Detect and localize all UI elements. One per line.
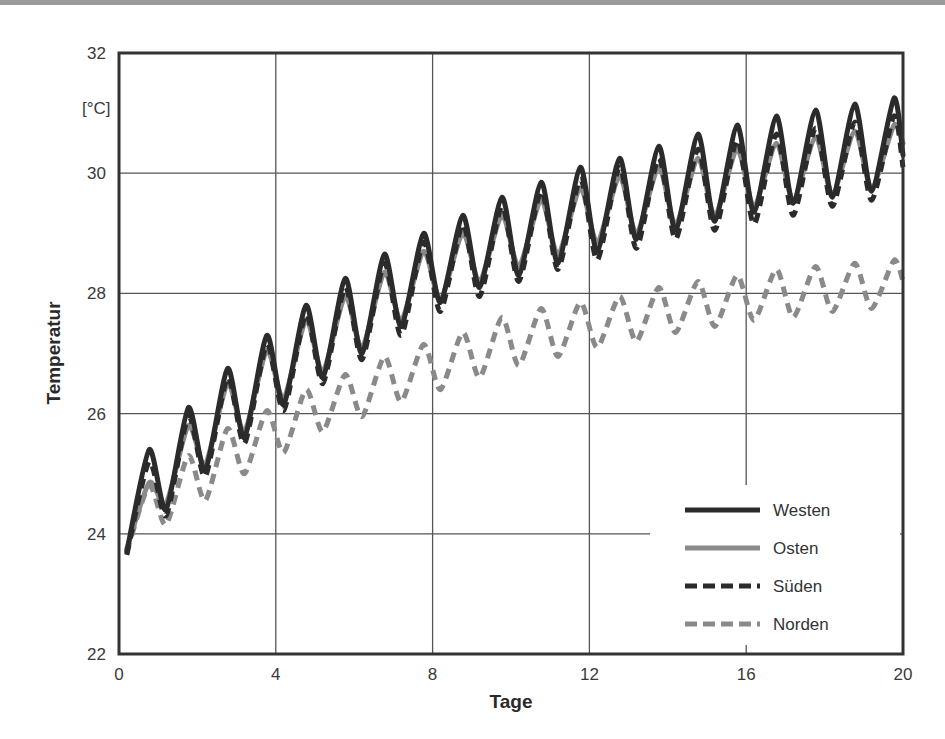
y-axis-ticks: 222426283032 — [87, 44, 106, 664]
x-tick-label: 4 — [271, 665, 280, 684]
temperature-line-chart: Westen Osten Süden Norden 048121620 2224… — [0, 0, 945, 739]
legend-label-westen: Westen — [773, 501, 830, 520]
y-tick-label: 26 — [87, 405, 106, 424]
y-axis-unit: [°C] — [82, 99, 111, 118]
x-axis-title: Tage — [490, 691, 533, 712]
legend: Westen Osten Süden Norden — [650, 485, 900, 645]
y-tick-label: 30 — [87, 164, 106, 183]
y-tick-label: 22 — [87, 645, 106, 664]
x-tick-label: 12 — [580, 665, 599, 684]
y-tick-label: 28 — [87, 284, 106, 303]
x-tick-label: 20 — [894, 665, 913, 684]
legend-label-osten: Osten — [773, 539, 818, 558]
series-line-westen — [127, 98, 903, 552]
y-tick-label: 24 — [87, 525, 106, 544]
x-tick-label: 0 — [114, 665, 123, 684]
x-tick-label: 8 — [428, 665, 437, 684]
legend-label-norden: Norden — [773, 615, 829, 634]
x-tick-label: 16 — [737, 665, 756, 684]
y-axis-title: Temperatur — [43, 301, 64, 405]
y-tick-label: 32 — [87, 44, 106, 63]
legend-label-sueden: Süden — [773, 577, 822, 596]
x-axis-ticks: 048121620 — [114, 665, 912, 684]
